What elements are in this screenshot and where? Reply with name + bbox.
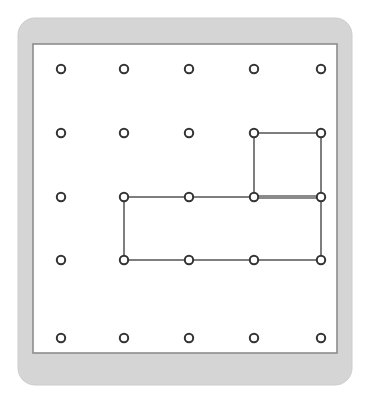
peg-r4-c1[interactable] [57, 256, 65, 264]
peg-r3-c5[interactable] [317, 193, 325, 201]
geoboard-canvas [0, 0, 369, 399]
peg-r3-c4[interactable] [250, 193, 258, 201]
peg-r1-c5[interactable] [317, 65, 325, 73]
peg-r2-c3[interactable] [185, 129, 193, 137]
peg-r4-c5[interactable] [317, 256, 325, 264]
peg-r3-c2[interactable] [120, 193, 128, 201]
peg-r3-c3[interactable] [185, 193, 193, 201]
peg-r5-c4[interactable] [250, 334, 258, 342]
peg-r5-c1[interactable] [57, 334, 65, 342]
peg-r4-c3[interactable] [185, 256, 193, 264]
peg-r4-c2[interactable] [120, 256, 128, 264]
peg-r5-c2[interactable] [120, 334, 128, 342]
peg-r3-c1[interactable] [57, 193, 65, 201]
peg-r5-c3[interactable] [185, 334, 193, 342]
peg-r1-c3[interactable] [185, 65, 193, 73]
peg-r2-c2[interactable] [120, 129, 128, 137]
peg-r1-c4[interactable] [250, 65, 258, 73]
peg-r2-c1[interactable] [57, 129, 65, 137]
geoboard-figure [0, 0, 369, 399]
peg-r2-c4[interactable] [250, 129, 258, 137]
peg-r1-c2[interactable] [120, 65, 128, 73]
peg-r5-c5[interactable] [317, 334, 325, 342]
peg-r2-c5[interactable] [317, 129, 325, 137]
peg-r1-c1[interactable] [57, 65, 65, 73]
peg-r4-c4[interactable] [250, 256, 258, 264]
